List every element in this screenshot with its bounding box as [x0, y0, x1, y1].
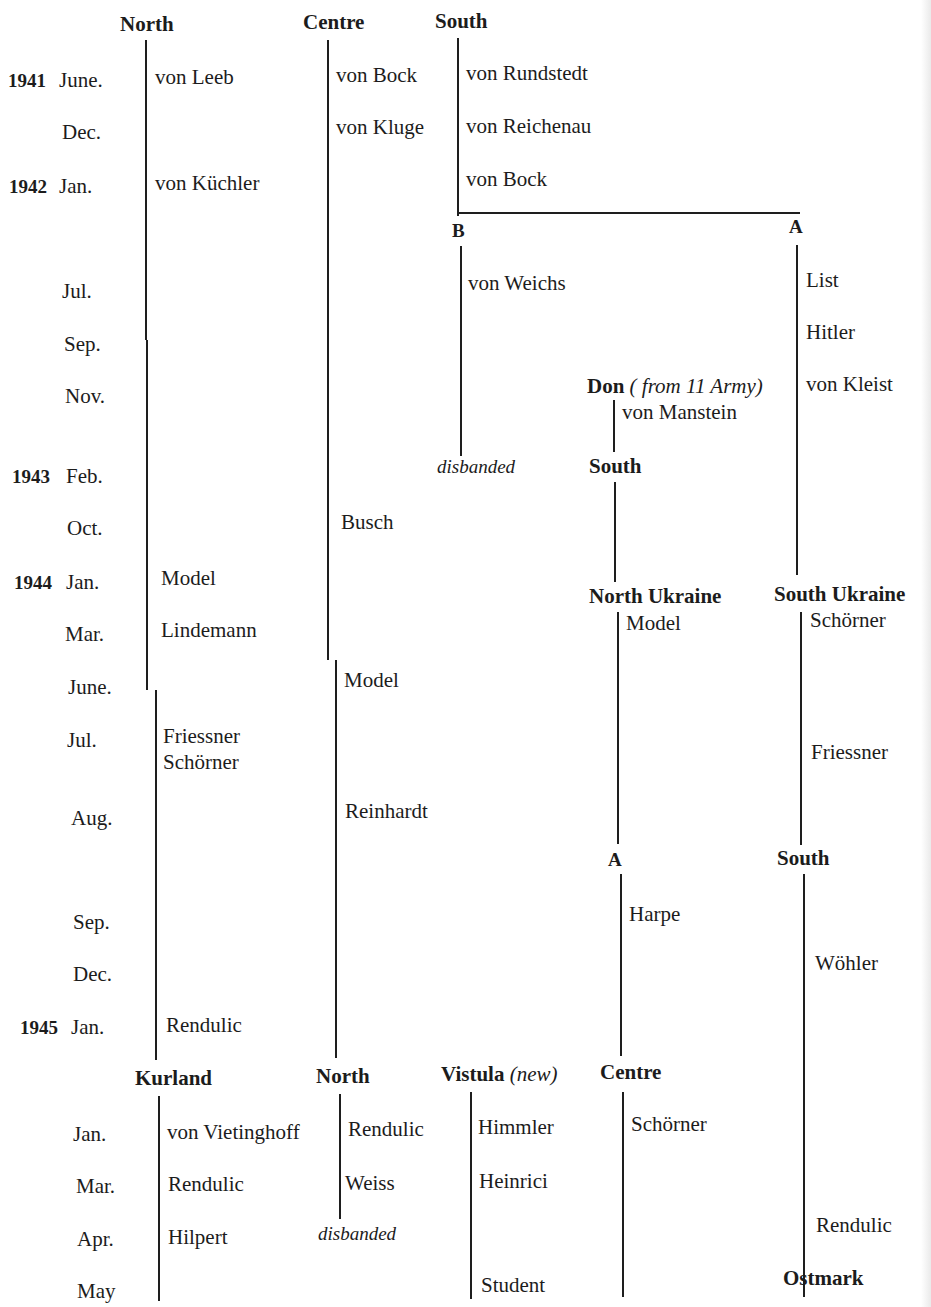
month-label: Sep.	[64, 332, 101, 356]
header-a-2: A	[608, 848, 622, 872]
commander-vistula: Heinrici	[479, 1169, 548, 1193]
month-label: May	[77, 1279, 116, 1303]
south-line	[457, 38, 459, 216]
army-group-commanders-diagram: North Centre South B A Don ( from 11 Arm…	[0, 0, 931, 1307]
commander-south: von Reichenau	[466, 114, 591, 138]
commander-north: Friessner	[163, 724, 240, 748]
year-label: 1942	[9, 175, 47, 199]
month-label: Apr.	[77, 1227, 114, 1251]
month-label: Jan.	[66, 570, 99, 594]
centre-line	[335, 660, 337, 1058]
month-label: Jan.	[71, 1015, 104, 1039]
header-north-2: North	[316, 1064, 370, 1088]
header-vistula-note: (new)	[510, 1062, 558, 1086]
header-a: A	[789, 215, 803, 239]
north-line	[146, 340, 148, 690]
commander-centre: Model	[344, 668, 399, 692]
commander-north: Model	[161, 566, 216, 590]
north-2-line	[339, 1094, 341, 1219]
centre-line	[327, 40, 329, 660]
header-kurland: Kurland	[135, 1066, 212, 1090]
header-centre: Centre	[303, 10, 364, 34]
commander-a: List	[806, 268, 839, 292]
month-label: June.	[59, 68, 103, 92]
year-label: 1944	[14, 571, 52, 595]
header-south-2: South	[589, 454, 642, 478]
south-ukraine-line	[800, 612, 802, 845]
south-3-line	[803, 874, 805, 1297]
commander-north: Lindemann	[161, 618, 257, 642]
month-label: Oct.	[67, 516, 103, 540]
commander-centre: Reinhardt	[345, 799, 428, 823]
south-2-line	[614, 482, 616, 582]
month-label: Mar.	[76, 1174, 115, 1198]
month-label: Dec.	[73, 962, 112, 986]
month-label: Mar.	[65, 622, 104, 646]
header-vistula: Vistula (new)	[441, 1062, 557, 1086]
month-label: Jul.	[62, 279, 92, 303]
header-south-3: South	[777, 846, 830, 870]
commander-kurland: Hilpert	[168, 1225, 227, 1249]
header-south: South	[435, 9, 488, 33]
commander-centre: von Kluge	[336, 115, 424, 139]
commander-don: von Manstein	[622, 400, 737, 424]
month-label: Jan.	[59, 174, 92, 198]
commander-a-2: Harpe	[629, 902, 680, 926]
north-ukraine-line	[617, 612, 619, 844]
commander-south-3: Wöhler	[815, 951, 878, 975]
header-don: Don ( from 11 Army)	[587, 374, 763, 398]
header-vistula-label: Vistula	[441, 1062, 504, 1086]
group-b-line	[460, 246, 462, 456]
header-south-ukraine: South Ukraine	[774, 582, 905, 606]
month-label: Aug.	[71, 806, 112, 830]
commander-north: Schörner	[163, 750, 239, 774]
header-b: B	[452, 219, 465, 243]
month-label: Nov.	[65, 384, 105, 408]
commander-centre-2: Schörner	[631, 1112, 707, 1136]
north-line	[155, 690, 157, 1060]
commander-south: von Rundstedt	[466, 61, 588, 85]
vistula-line	[470, 1092, 472, 1299]
centre-2-line	[622, 1092, 624, 1297]
month-label: Jan.	[73, 1122, 106, 1146]
commander-a: von Kleist	[806, 372, 893, 396]
a-2-line	[620, 874, 622, 1056]
commander-south-3: Rendulic	[816, 1213, 892, 1237]
year-label: 1945	[20, 1016, 58, 1040]
kurland-line	[158, 1096, 160, 1301]
commander-north-2: Weiss	[345, 1171, 395, 1195]
year-label: 1943	[12, 465, 50, 489]
b-disbanded-label: disbanded	[437, 455, 515, 479]
commander-a: Hitler	[806, 320, 855, 344]
year-label: 1941	[8, 69, 46, 93]
commander-vistula: Student	[481, 1273, 545, 1297]
commander-south-ukraine: Schörner	[810, 608, 886, 632]
commander-centre: Busch	[341, 510, 394, 534]
commander-north: Rendulic	[166, 1013, 242, 1037]
don-line	[613, 400, 615, 452]
header-don-label: Don	[587, 374, 624, 398]
commander-b: von Weichs	[468, 271, 566, 295]
header-centre-2: Centre	[600, 1060, 661, 1084]
commander-kurland: Rendulic	[168, 1172, 244, 1196]
commander-north-2: Rendulic	[348, 1117, 424, 1141]
north-2-disbanded-label: disbanded	[318, 1222, 396, 1246]
north-line	[145, 40, 147, 340]
split-b-a-line	[457, 212, 800, 214]
group-a-line	[796, 245, 798, 575]
commander-kurland: von Vietinghoff	[167, 1120, 300, 1144]
month-label: June.	[68, 675, 112, 699]
commander-south: von Bock	[466, 167, 547, 191]
commander-vistula: Himmler	[478, 1115, 554, 1139]
commander-north: von Leeb	[155, 65, 234, 89]
month-label: Feb.	[66, 464, 103, 488]
commander-south-ukraine: Friessner	[811, 740, 888, 764]
month-label: Jul.	[67, 728, 97, 752]
commander-north: von Küchler	[155, 171, 259, 195]
header-north: North	[120, 12, 174, 36]
header-don-note: ( from 11 Army)	[630, 374, 763, 398]
header-north-ukraine: North Ukraine	[589, 584, 721, 608]
header-ostmark: Ostmark	[783, 1266, 864, 1290]
commander-centre: von Bock	[336, 63, 417, 87]
page-edge-shadow	[921, 0, 931, 1307]
